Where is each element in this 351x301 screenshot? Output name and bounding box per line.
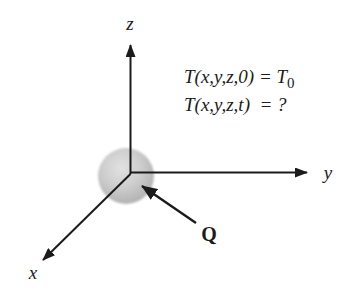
equation-text: T(x,y,z,t) = ? <box>184 94 287 115</box>
equation-text: T(x,y,z,0) = T <box>184 66 287 87</box>
equation-block: T(x,y,z,0) = T0 T(x,y,z,t) = ? <box>184 63 295 119</box>
q-source-arrow <box>142 186 196 223</box>
y-axis-label: y <box>324 163 332 182</box>
origin-sphere <box>98 148 154 204</box>
heat-source-label: Q <box>201 224 217 244</box>
x-axis-line <box>43 174 131 260</box>
equation-unknown-temperature: T(x,y,z,t) = ? <box>184 91 295 119</box>
equation-initial-condition: T(x,y,z,0) = T0 <box>184 63 295 91</box>
z-axis-label: z <box>126 14 133 33</box>
coordinate-axes-figure <box>0 0 351 301</box>
equation-subscript: 0 <box>287 75 295 91</box>
x-axis-label: x <box>29 263 37 282</box>
diagram-canvas: z y x Q T(x,y,z,0) = T0 T(x,y,z,t) = ? <box>0 0 351 301</box>
